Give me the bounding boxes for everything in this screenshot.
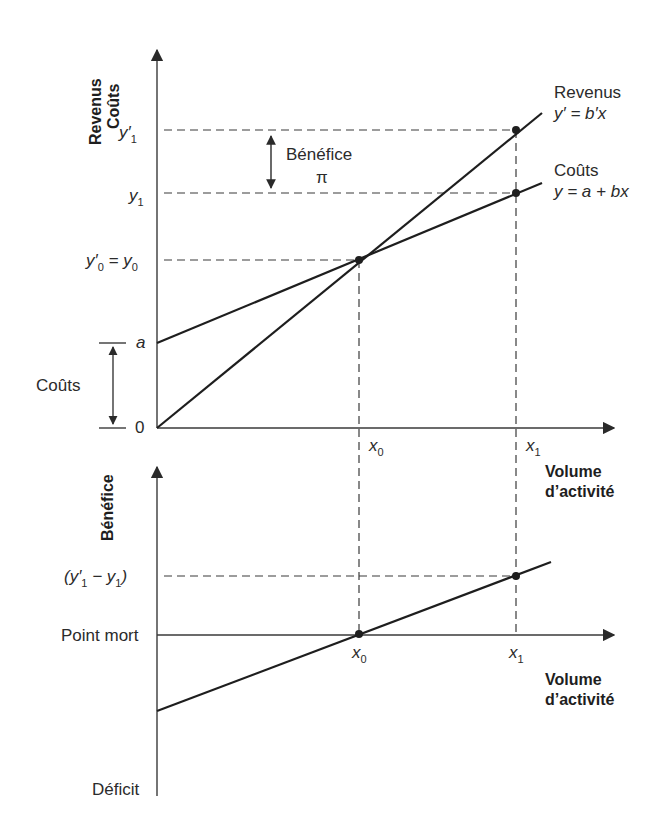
top-x-axis-title-2: d’activité (545, 483, 614, 500)
bottom-tick-x1: x1 (508, 643, 524, 665)
breakeven-point (355, 256, 363, 264)
bottom-x-axis-title-1: Volume (545, 671, 602, 688)
profit-point-x1 (512, 572, 520, 580)
cost-point-x1 (512, 189, 520, 197)
breakeven-point-bottom (355, 630, 363, 638)
top-y-axis-title-1: Revenus (87, 78, 104, 145)
tick-y1: y1 (128, 186, 144, 208)
tick-y0: y′0 = y0 (85, 251, 138, 273)
pi-label: π (316, 168, 328, 187)
benefice-label: Bénéfice (286, 145, 352, 164)
fixed-cost-label: Coûts (36, 376, 80, 395)
bottom-tick-x0: x0 (351, 643, 367, 665)
top-tick-x0: x0 (368, 436, 384, 458)
revenue-point-x1 (512, 126, 520, 134)
top-tick-x1: x1 (525, 436, 541, 458)
tick-point-mort: Point mort (61, 626, 139, 645)
tick-profit: (y′1 − y1) (64, 567, 127, 589)
legend-revenue-name: Revenus (554, 83, 621, 102)
bottom-chart: Bénéfice (y′1 − y1) Point mort Déficit x… (61, 467, 614, 799)
diagram-canvas: Revenus Coûts y′1 y1 y′0 = y0 a 0 Bénéfi… (0, 0, 669, 834)
tick-y1-prime: y′1 (118, 123, 137, 145)
tick-deficit: Déficit (92, 780, 140, 799)
bottom-x-axis-title-2: d’activité (545, 691, 614, 708)
top-dashed-guides (164, 130, 516, 520)
cost-line (157, 183, 542, 343)
top-x-axis-title-1: Volume (545, 463, 602, 480)
legend-cost-eq: y = a + bx (553, 182, 629, 201)
bottom-dashed-guides (164, 520, 516, 635)
bottom-y-axis-title: Bénéfice (99, 474, 116, 541)
tick-zero: 0 (135, 418, 144, 437)
legend-cost-name: Coûts (554, 161, 598, 180)
tick-a: a (136, 333, 145, 352)
profit-line (157, 562, 551, 711)
breakeven-diagram: Revenus Coûts y′1 y1 y′0 = y0 a 0 Bénéfi… (0, 0, 669, 834)
legend-revenue-eq: y′ = b′x (553, 104, 607, 123)
top-chart: Revenus Coûts y′1 y1 y′0 = y0 a 0 Bénéfi… (36, 50, 629, 520)
